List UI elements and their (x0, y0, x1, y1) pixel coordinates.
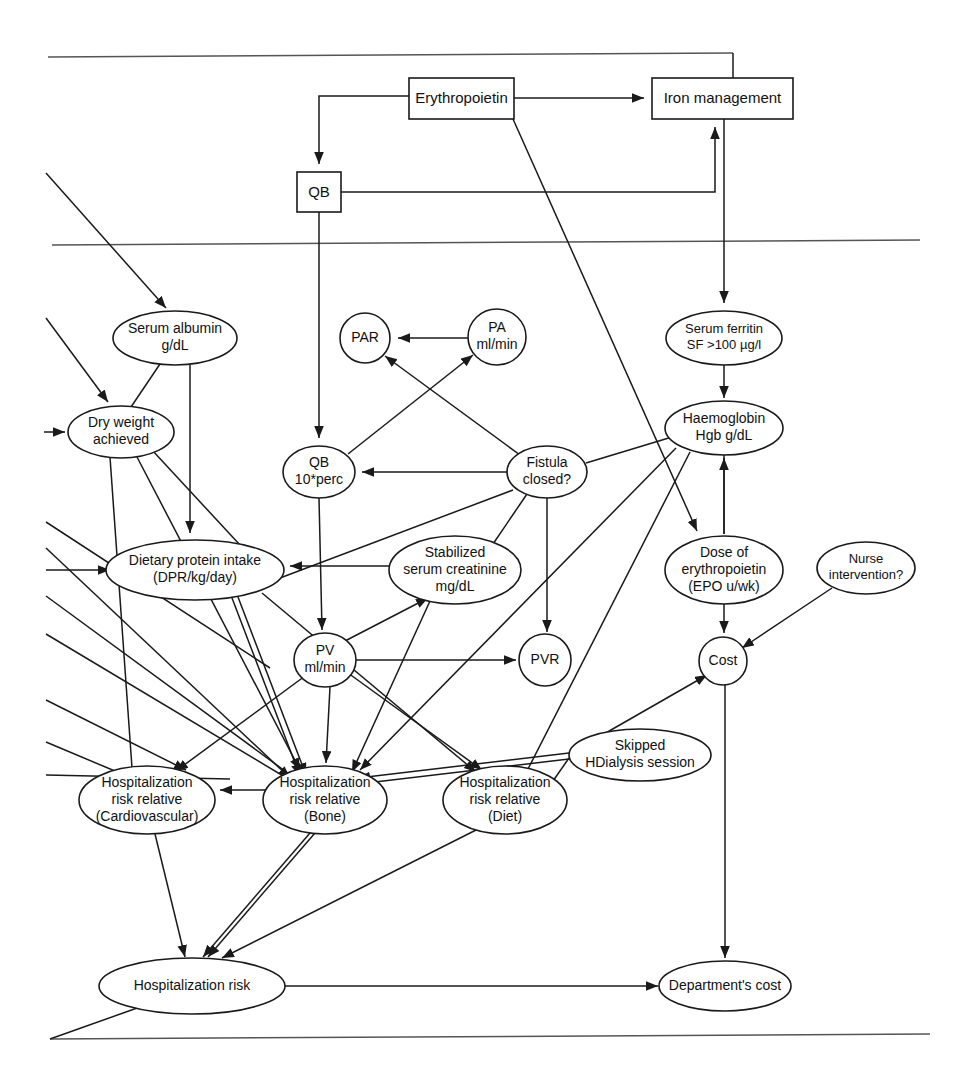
node-pvr[interactable]: PVR (519, 634, 571, 686)
node-label-pa-mlmin-line-1: ml/min (476, 336, 517, 352)
node-label-erythropoietin: Erythropoietin (415, 89, 508, 106)
node-hosp-risk-diet[interactable]: Hospitalizationrisk relative(Diet) (443, 766, 567, 834)
node-label-pv-mlmin-line-1: ml/min (304, 659, 345, 675)
qb-decision-to-iron-management (341, 127, 715, 192)
node-label-fistula-closed-line-0: Fistula (526, 454, 567, 470)
node-label-hosp-risk-bone-line-0: Hospitalization (279, 774, 370, 790)
node-label-stabilized-serum-creatinine-line-0: Stabilized (425, 544, 486, 560)
node-label-dietary-protein-intake-line-0: Dietary protein intake (129, 552, 262, 568)
node-label-departments-cost-line-0: Department's cost (669, 977, 781, 993)
node-dry-weight-achieved[interactable]: Dry weightachieved (68, 406, 174, 458)
hosp-diet-to-hospitalization-risk (222, 828, 480, 958)
node-label-qb-10perc-line-1: 10*perc (295, 471, 343, 487)
node-stabilized-serum-creatinine[interactable]: Stabilizedserum creatininemg/dL (389, 536, 521, 604)
node-label-stabilized-serum-creatinine-line-2: mg/dL (436, 578, 475, 594)
offpage-left-line-f (46, 700, 186, 770)
node-label-serum-ferritin-line-0: Serum ferritin (685, 321, 763, 336)
node-hospitalization-risk[interactable]: Hospitalization risk (99, 958, 285, 1014)
node-skipped-hdialysis-session[interactable]: SkippedHDialysis session (569, 729, 711, 781)
bottom-border-line (50, 1034, 930, 1039)
node-label-hosp-risk-bone-line-1: risk relative (290, 791, 361, 807)
node-erythropoietin[interactable]: Erythropoietin (409, 78, 514, 119)
diagram-canvas: ErythropoietinIron managementQBSerum alb… (0, 0, 962, 1083)
node-hosp-risk-cardiovascular[interactable]: Hospitalizationrisk relative(Cardiovascu… (79, 766, 215, 834)
node-qb-10perc[interactable]: QB10*perc (283, 446, 355, 498)
node-cost[interactable]: Cost (699, 637, 747, 685)
node-label-stabilized-serum-creatinine-line-1: serum creatinine (403, 561, 507, 577)
node-label-hosp-risk-diet-line-2: (Diet) (488, 808, 522, 824)
node-label-haemoglobin-line-1: Hgb g/dL (696, 427, 753, 443)
node-label-hosp-risk-cardiovascular-line-1: risk relative (112, 791, 183, 807)
node-serum-ferritin[interactable]: Serum ferritinSF >100 µg/l (666, 311, 782, 365)
node-label-dry-weight-achieved-line-1: achieved (93, 431, 149, 447)
node-nurse-intervention[interactable]: Nurseintervention? (817, 542, 915, 594)
node-label-pa-mlmin-line-0: PA (488, 319, 506, 335)
offpage-left-line-g (46, 742, 122, 774)
pv-to-hosp-bone (326, 687, 330, 763)
node-label-qb-decision: QB (308, 183, 330, 200)
dry-weight-to-dietary-protein (152, 450, 240, 545)
node-label-pv-mlmin-line-0: PV (316, 642, 335, 658)
node-label-hosp-risk-diet-line-0: Hospitalization (459, 774, 550, 790)
node-label-hospitalization-risk-line-0: Hospitalization risk (134, 977, 252, 993)
node-label-pvr-line-0: PVR (531, 651, 560, 667)
pv-to-stabilized-creatinine (345, 598, 428, 641)
erythropoietin-to-qb-decision (319, 96, 409, 164)
node-label-dietary-protein-intake-line-1: (DPR/kg/day) (153, 569, 237, 585)
node-label-skipped-hdialysis-session-line-1: HDialysis session (585, 754, 695, 770)
hosp-cardio-to-hospitalization-risk (155, 834, 185, 957)
offpage-to-dry-weight (46, 318, 108, 402)
node-pv-mlmin[interactable]: PVml/min (294, 633, 356, 687)
node-label-par-line-0: PAR (351, 329, 379, 345)
stabilized-creatinine-to-hosp-bone (352, 601, 430, 772)
node-label-serum-albumin-line-1: g/dL (161, 337, 188, 353)
qb10perc-to-pv (319, 498, 322, 630)
fistula-to-stabilized-creatinine (493, 494, 527, 544)
skipped-to-hosp-diet (553, 758, 569, 781)
influence-diagram: ErythropoietinIron managementQBSerum alb… (0, 0, 962, 1083)
node-label-serum-ferritin-line-1: SF >100 µg/l (687, 337, 761, 352)
node-qb-decision[interactable]: QB (297, 172, 341, 212)
node-label-hosp-risk-bone-line-2: (Bone) (304, 808, 346, 824)
node-label-hosp-risk-diet-line-1: risk relative (470, 791, 541, 807)
hosp-bone-to-hospitalization-risk-a (203, 833, 310, 957)
node-iron-management[interactable]: Iron management (652, 78, 793, 119)
fistula-to-haemoglobin (586, 437, 672, 463)
node-haemoglobin[interactable]: HaemoglobinHgb g/dL (665, 401, 783, 455)
node-pa-mlmin[interactable]: PAml/min (468, 309, 526, 365)
node-label-hosp-risk-cardiovascular-line-2: (Cardiovascular) (96, 808, 199, 824)
offpage-left-line-d (46, 596, 300, 782)
upper-divider-line (52, 240, 920, 245)
node-label-haemoglobin-line-0: Haemoglobin (683, 410, 766, 426)
top-border-line (48, 53, 733, 57)
node-label-nurse-intervention-line-1: intervention? (829, 567, 903, 582)
dry-weight-to-hosp-cardio (110, 457, 132, 768)
serum-albumin-to-dry-weight (131, 364, 160, 407)
node-label-iron-management: Iron management (664, 89, 782, 106)
node-departments-cost[interactable]: Department's cost (659, 961, 791, 1011)
node-serum-albumin[interactable]: Serum albuming/dL (113, 311, 237, 365)
node-label-skipped-hdialysis-session-line-0: Skipped (615, 737, 666, 753)
node-dose-of-erythropoietin[interactable]: Dose oferythropoietin(EPO u/wk) (665, 536, 783, 604)
hospitalization-risk-to-bottom-border (50, 1007, 140, 1039)
nodes: ErythropoietinIron managementQBSerum alb… (68, 78, 915, 1014)
node-label-dry-weight-achieved-line-0: Dry weight (88, 414, 154, 430)
node-label-serum-albumin-line-0: Serum albumin (128, 320, 222, 336)
node-label-cost-line-0: Cost (709, 652, 738, 668)
dietary-protein-to-hosp-bone-b (238, 597, 306, 775)
node-label-dose-of-erythropoietin-line-2: (EPO u/wk) (688, 578, 760, 594)
node-label-qb-10perc-line-0: QB (309, 454, 329, 470)
haemoglobin-to-hosp-diet (528, 452, 690, 769)
node-label-dose-of-erythropoietin-line-0: Dose of (700, 544, 748, 560)
node-fistula-closed[interactable]: Fistulaclosed? (507, 446, 587, 498)
qb10perc-to-pa (348, 355, 473, 454)
node-dietary-protein-intake[interactable]: Dietary protein intake(DPR/kg/day) (106, 540, 284, 600)
node-par[interactable]: PAR (340, 313, 390, 363)
node-label-hosp-risk-cardiovascular-line-0: Hospitalization (101, 774, 192, 790)
node-label-fistula-closed-line-1: closed? (523, 471, 571, 487)
node-hosp-risk-bone[interactable]: Hospitalizationrisk relative(Bone) (263, 766, 387, 834)
node-label-dose-of-erythropoietin-line-1: erythropoietin (682, 561, 767, 577)
node-label-nurse-intervention-line-0: Nurse (849, 551, 884, 566)
offpage-to-serum-albumin (46, 173, 166, 308)
